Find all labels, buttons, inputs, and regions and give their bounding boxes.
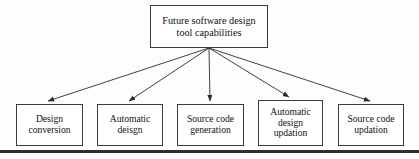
node-future-software-design-tool-capabilities: Future software design tool capabilities (150, 5, 268, 48)
node-label: Automatic deisgn (108, 114, 153, 135)
node-design-conversion: Design conversion (16, 104, 83, 146)
node-label: Automatic design updation (268, 107, 313, 139)
node-label: Source code updation (345, 114, 396, 135)
edge-root-to-source-code-updation (209, 48, 370, 101)
node-source-code-generation: Source code generation (177, 104, 244, 146)
node-automatic-deisgn: Automatic deisgn (97, 104, 163, 146)
node-label: Design conversion (26, 114, 72, 135)
edge-root-to-automatic-deisgn (129, 48, 209, 101)
node-label: Future software design tool capabilities (160, 15, 257, 38)
bottom-divider-rule (0, 150, 419, 153)
diagram-canvas: Future software design tool capabilities… (0, 0, 419, 159)
node-source-code-updation: Source code updation (338, 104, 404, 146)
node-automatic-design-updation: Automatic design updation (258, 100, 323, 146)
edge-root-to-design-conversion (48, 48, 209, 101)
node-label: Source code generation (185, 114, 236, 135)
edge-root-to-source-code-generation (209, 48, 210, 101)
edge-root-to-automatic-design-updation (209, 48, 289, 97)
